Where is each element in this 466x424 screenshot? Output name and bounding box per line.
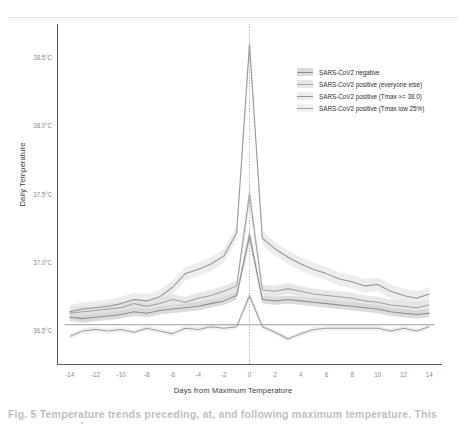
legend-label-0: SARS-CoV2 negative — [319, 69, 380, 76]
legend-line-0 — [297, 72, 313, 73]
legend-swatch-icon-1 — [296, 78, 314, 90]
x-tick-label-11: 8 — [342, 371, 362, 378]
top-divider-rule — [8, 17, 458, 18]
legend-label-2: SARS-CoV2 positive (Tmax >= 38.0) — [319, 93, 422, 100]
x-tick-label-1: -12 — [86, 371, 106, 378]
x-tick-label-13: 12 — [394, 371, 414, 378]
x-tick-label-12: 10 — [368, 371, 388, 378]
legend-line-1 — [297, 84, 313, 85]
chart-figure: Daily Temperature Days from Maximum Temp… — [0, 20, 466, 400]
chart-legend: SARS-CoV2 negativeSARS-CoV2 positive (ev… — [296, 66, 456, 114]
y-tick-label-1: 37.0°C — [16, 259, 52, 266]
y-tick-label-2: 37.5°C — [16, 191, 52, 198]
x-tick-label-10: 6 — [317, 371, 337, 378]
x-axis-tick-labels: -14-12-10-8-6-4-202468101214 — [0, 371, 466, 383]
legend-item-3[interactable]: SARS-CoV2 positive (Tmax low 25%) — [296, 102, 456, 114]
legend-swatch-icon-3 — [296, 102, 314, 114]
legend-line-3 — [297, 108, 313, 109]
y-tick-label-4: 38.5°C — [16, 54, 52, 61]
x-tick-label-5: -4 — [188, 371, 208, 378]
x-tick-label-7: 0 — [240, 371, 260, 378]
legend-item-2[interactable]: SARS-CoV2 positive (Tmax >= 38.0) — [296, 90, 456, 102]
x-tick-label-4: -6 — [163, 371, 183, 378]
y-axis-tick-labels: 36.5°C37.0°C37.5°C38.0°C38.5°C — [16, 20, 52, 360]
x-tick-label-9: 4 — [291, 371, 311, 378]
legend-swatch-icon-2 — [296, 90, 314, 102]
x-tick-label-2: -10 — [111, 371, 131, 378]
legend-label-3: SARS-CoV2 positive (Tmax low 25%) — [319, 105, 424, 112]
x-tick-label-14: 14 — [419, 371, 439, 378]
legend-label-1: SARS-CoV2 positive (everyone else) — [319, 81, 422, 88]
x-tick-label-8: 2 — [265, 371, 285, 378]
x-tick-label-6: -2 — [214, 371, 234, 378]
y-tick-label-0: 36.5°C — [16, 327, 52, 334]
figure-caption: Fig. 5 Temperature trends preceding, at,… — [8, 408, 458, 424]
y-tick-label-3: 38.0°C — [16, 122, 52, 129]
x-tick-label-3: -8 — [137, 371, 157, 378]
x-tick-label-0: -14 — [60, 371, 80, 378]
x-axis-title: Days from Maximum Temperature — [0, 386, 466, 395]
figure-page: Daily Temperature Days from Maximum Temp… — [0, 0, 466, 424]
legend-swatch-icon-0 — [296, 66, 314, 78]
legend-item-1[interactable]: SARS-CoV2 positive (everyone else) — [296, 78, 456, 90]
legend-line-2 — [297, 96, 313, 97]
legend-item-0[interactable]: SARS-CoV2 negative — [296, 66, 456, 78]
